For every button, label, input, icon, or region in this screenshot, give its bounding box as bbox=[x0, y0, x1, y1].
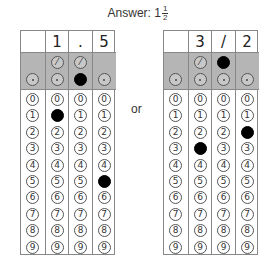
digit-bubble-7[interactable]: 7 bbox=[194, 208, 207, 221]
digit-bubble-2[interactable]: 2 bbox=[74, 126, 87, 139]
digit-bubble-9[interactable]: 9 bbox=[74, 241, 87, 254]
digit-bubble-3[interactable]: 3 bbox=[169, 142, 182, 155]
digit-bubble-7[interactable]: 7 bbox=[241, 208, 254, 221]
written-answer-box[interactable]: 5 bbox=[93, 31, 116, 53]
digit-bubble-0[interactable]: 0 bbox=[217, 93, 230, 106]
digit-bubble-7[interactable]: 7 bbox=[51, 208, 64, 221]
digit-bubble-1[interactable]: 1 bbox=[26, 109, 39, 122]
slash-bubble[interactable]: ⁄ bbox=[217, 56, 230, 69]
digit-bubble-8[interactable]: 8 bbox=[74, 224, 87, 237]
digit-bubble-6[interactable]: 6 bbox=[194, 191, 207, 204]
digit-bubble-5[interactable]: 5 bbox=[74, 175, 87, 188]
digit-bubble-8[interactable]: 8 bbox=[241, 224, 254, 237]
digit-bubble-5[interactable]: 5 bbox=[194, 175, 207, 188]
decimal-point-bubble[interactable] bbox=[194, 73, 207, 86]
digit-bubble-2[interactable]: 2 bbox=[241, 126, 254, 139]
digit-bubble-0[interactable]: 0 bbox=[26, 93, 39, 106]
digit-bubble-5[interactable]: 5 bbox=[98, 175, 111, 188]
digit-bubble-3[interactable]: 3 bbox=[98, 142, 111, 155]
digit-bubble-3[interactable]: 3 bbox=[74, 142, 87, 155]
digit-bubble-0[interactable]: 0 bbox=[74, 93, 87, 106]
digit-bubble-9[interactable]: 9 bbox=[51, 241, 64, 254]
slash-bubble[interactable]: ⁄ bbox=[74, 56, 87, 69]
digit-bubble-8[interactable]: 8 bbox=[217, 224, 230, 237]
digit-bubble-3[interactable]: 3 bbox=[194, 142, 207, 155]
digit-bubble-7[interactable]: 7 bbox=[74, 208, 87, 221]
digit-bubble-8[interactable]: 8 bbox=[26, 224, 39, 237]
written-answer-box[interactable] bbox=[164, 31, 188, 53]
written-answer-box[interactable]: 1 bbox=[46, 31, 69, 53]
digit-bubble-8[interactable]: 8 bbox=[51, 224, 64, 237]
digit-bubble-1[interactable]: 1 bbox=[169, 109, 182, 122]
digit-bubble-2[interactable]: 2 bbox=[51, 126, 64, 139]
digit-bubble-7[interactable]: 7 bbox=[26, 208, 39, 221]
digit-bubble-9[interactable]: 9 bbox=[169, 241, 182, 254]
decimal-point-bubble[interactable] bbox=[217, 73, 230, 86]
digit-bubble-2[interactable]: 2 bbox=[169, 126, 182, 139]
decimal-point-bubble[interactable] bbox=[74, 73, 87, 86]
digit-bubble-4[interactable]: 4 bbox=[51, 159, 64, 172]
digit-bubble-5[interactable]: 5 bbox=[241, 175, 254, 188]
digit-bubble-2[interactable]: 2 bbox=[217, 126, 230, 139]
digit-bubble-8[interactable]: 8 bbox=[98, 224, 111, 237]
digit-bubble-7[interactable]: 7 bbox=[217, 208, 230, 221]
slash-bubble[interactable]: ⁄ bbox=[194, 56, 207, 69]
digit-bubble-0[interactable]: 0 bbox=[169, 93, 182, 106]
digit-bubble-6[interactable]: 6 bbox=[98, 191, 111, 204]
digit-bubble-2[interactable]: 2 bbox=[98, 126, 111, 139]
digit-bubble-0[interactable]: 0 bbox=[241, 93, 254, 106]
slash-bubble[interactable]: ⁄ bbox=[51, 56, 64, 69]
digit-bubble-4[interactable]: 4 bbox=[217, 159, 230, 172]
digit-bubble-3[interactable]: 3 bbox=[241, 142, 254, 155]
digit-bubble-3[interactable]: 3 bbox=[217, 142, 230, 155]
digit-bubble-3[interactable]: 3 bbox=[51, 142, 64, 155]
digit-bubble-4[interactable]: 4 bbox=[194, 159, 207, 172]
digit-bubble-4[interactable]: 4 bbox=[169, 159, 182, 172]
digit-bubble-5[interactable]: 5 bbox=[169, 175, 182, 188]
digit-bubble-4[interactable]: 4 bbox=[74, 159, 87, 172]
digit-bubble-8[interactable]: 8 bbox=[169, 224, 182, 237]
digit-bubble-4[interactable]: 4 bbox=[98, 159, 111, 172]
decimal-point-bubble[interactable] bbox=[98, 73, 111, 86]
digit-bubble-6[interactable]: 6 bbox=[217, 191, 230, 204]
digit-bubble-7[interactable]: 7 bbox=[169, 208, 182, 221]
digit-bubble-6[interactable]: 6 bbox=[241, 191, 254, 204]
written-answer-box[interactable]: 2 bbox=[236, 31, 259, 53]
digit-bubble-4[interactable]: 4 bbox=[26, 159, 39, 172]
digit-bubble-1[interactable]: 1 bbox=[194, 109, 207, 122]
digit-bubble-7[interactable]: 7 bbox=[98, 208, 111, 221]
digit-bubble-4[interactable]: 4 bbox=[241, 159, 254, 172]
digit-bubble-5[interactable]: 5 bbox=[51, 175, 64, 188]
digit-bubble-0[interactable]: 0 bbox=[194, 93, 207, 106]
digit-bubble-0[interactable]: 0 bbox=[51, 93, 64, 106]
decimal-point-bubble[interactable] bbox=[51, 73, 64, 86]
digit-bubble-2[interactable]: 2 bbox=[194, 126, 207, 139]
digit-bubble-9[interactable]: 9 bbox=[98, 241, 111, 254]
digit-bubble-2[interactable]: 2 bbox=[26, 126, 39, 139]
digit-bubble-1[interactable]: 1 bbox=[74, 109, 87, 122]
decimal-point-bubble[interactable] bbox=[169, 73, 182, 86]
digit-bubble-0[interactable]: 0 bbox=[98, 93, 111, 106]
digit-bubble-1[interactable]: 1 bbox=[241, 109, 254, 122]
digit-bubble-5[interactable]: 5 bbox=[26, 175, 39, 188]
written-answer-box[interactable]: 3 bbox=[189, 31, 212, 53]
digit-bubble-9[interactable]: 9 bbox=[241, 241, 254, 254]
digit-bubble-6[interactable]: 6 bbox=[74, 191, 87, 204]
digit-bubble-1[interactable]: 1 bbox=[51, 109, 64, 122]
decimal-point-bubble[interactable] bbox=[26, 73, 39, 86]
digit-bubble-3[interactable]: 3 bbox=[26, 142, 39, 155]
digit-bubble-6[interactable]: 6 bbox=[51, 191, 64, 204]
decimal-point-bubble[interactable] bbox=[241, 73, 254, 86]
digit-bubble-6[interactable]: 6 bbox=[26, 191, 39, 204]
written-answer-box[interactable] bbox=[21, 31, 45, 53]
digit-bubble-9[interactable]: 9 bbox=[194, 241, 207, 254]
written-answer-box[interactable]: / bbox=[212, 31, 235, 53]
digit-bubble-9[interactable]: 9 bbox=[26, 241, 39, 254]
digit-bubble-1[interactable]: 1 bbox=[98, 109, 111, 122]
written-answer-box[interactable]: . bbox=[69, 31, 92, 53]
digit-bubble-9[interactable]: 9 bbox=[217, 241, 230, 254]
digit-bubble-8[interactable]: 8 bbox=[194, 224, 207, 237]
digit-bubble-5[interactable]: 5 bbox=[217, 175, 230, 188]
digit-bubble-6[interactable]: 6 bbox=[169, 191, 182, 204]
digit-bubble-1[interactable]: 1 bbox=[217, 109, 230, 122]
